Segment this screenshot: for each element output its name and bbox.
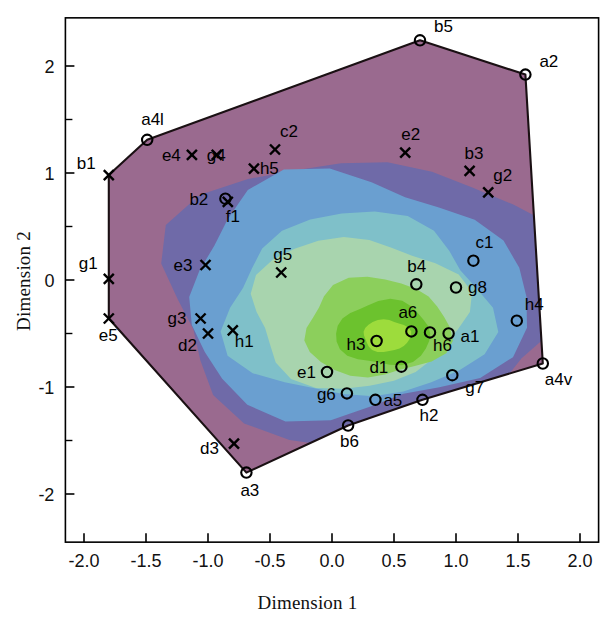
x-tick-label: 0.0 [319,551,344,571]
data-point-label: e5 [99,326,118,345]
scatter-plot-figure: -2.0-1.5-1.0-0.50.00.51.01.52.0210-1-2 b… [0,0,615,630]
data-point-label: d2 [178,336,197,355]
data-point-label: d3 [200,439,219,458]
data-point-label: e4 [162,146,181,165]
x-axis-title: Dimension 1 [0,592,615,614]
data-point-label: a5 [383,391,402,410]
data-point-label: g3 [168,309,187,328]
data-point-label: g7 [465,378,484,397]
x-tick-label: -1.5 [130,551,161,571]
plot-canvas: -2.0-1.5-1.0-0.50.00.51.01.52.0210-1-2 b… [0,0,615,630]
data-point[interactable]: a3 [240,467,259,499]
data-point-label: h4 [525,295,544,314]
x-tick-label: -1.0 [192,551,223,571]
x-tick-label: 0.5 [381,551,406,571]
data-point-label: a3 [240,481,259,500]
data-point-label: g1 [79,254,98,273]
data-point-label: g6 [317,385,336,404]
y-tick-label: 2 [44,57,54,77]
data-point-label: e1 [297,363,316,382]
contour-surface [0,0,615,630]
data-point-label: h6 [433,336,452,355]
y-tick-label: 0 [44,271,54,291]
x-tick-label: -0.5 [254,551,285,571]
data-point-label: b4 [407,257,426,276]
data-point-label: h5 [260,159,279,178]
data-point-label: a4v [545,370,573,389]
data-point-label: b6 [340,432,359,451]
x-tick-label: 1.0 [443,551,468,571]
data-point[interactable]: g4 [207,146,226,165]
data-point-label: h1 [235,332,254,351]
x-tick-label: 1.5 [505,551,530,571]
data-point-label: h2 [420,406,439,425]
x-tick-label: -2.0 [68,551,99,571]
data-point-label: g4 [207,146,226,165]
data-point-label: b5 [434,17,453,36]
data-point-label: a2 [539,52,558,71]
data-point-label: c2 [280,122,298,141]
data-point-label: h3 [347,335,366,354]
data-point-label: b3 [465,144,484,163]
data-point-label: g5 [273,245,292,264]
y-axis-title: Dimension 2 [13,171,35,391]
data-point-label: b2 [189,190,208,209]
data-point-label: f1 [226,207,240,226]
y-tick-label: -2 [38,485,54,505]
data-point-label: g2 [493,166,512,185]
data-point-label: e2 [401,125,420,144]
data-point-label: d1 [369,358,388,377]
x-tick-label: 2.0 [567,551,592,571]
data-point-label: g8 [468,278,487,297]
data-point-label: a4l [141,110,164,129]
data-point-label: e3 [174,256,193,275]
y-tick-label: 1 [44,164,54,184]
data-point-label: c1 [475,233,493,252]
data-point[interactable]: b1 [77,154,114,180]
data-point-label: a6 [398,303,417,322]
data-point-label: b1 [77,154,96,173]
y-tick-label: -1 [38,378,54,398]
data-point-label: a1 [461,327,480,346]
